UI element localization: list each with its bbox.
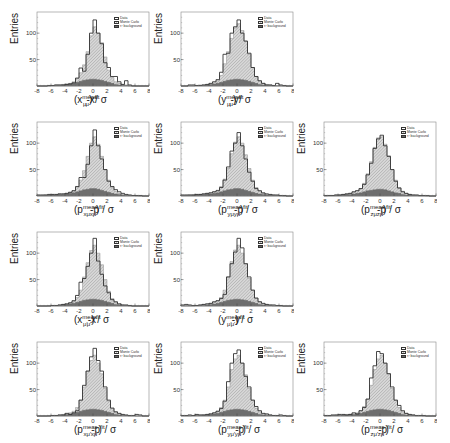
x-tick-label: 4 (263, 418, 267, 424)
legend: DataMonte Carloτ² background (401, 346, 429, 359)
x-axis-label-part: yμ' (235, 431, 243, 437)
legend-swatch-icon (258, 25, 263, 28)
x-tick-label: 6 (277, 418, 281, 424)
x-tick-label: -8 (321, 418, 327, 424)
legend-swatch-icon (114, 245, 119, 248)
y-axis-label: Entries (9, 13, 20, 44)
x-tick-label: 6 (133, 198, 137, 204)
legend-swatch-icon (114, 21, 119, 24)
x-axis-label-part: (p (218, 204, 227, 215)
x-axis-label-part: ) / σ (383, 204, 401, 215)
legend-swatch-icon (114, 135, 119, 138)
x-tick-label: -4 (62, 198, 68, 204)
legend-swatch-icon (114, 241, 119, 244)
legend-swatch-icon (401, 131, 406, 134)
legend-swatch-icon (114, 237, 119, 240)
x-tick-label: -8 (34, 308, 40, 314)
x-tick-label: -4 (62, 308, 68, 314)
x-axis-label-part: xμ (90, 211, 96, 217)
x-tick-label: 8 (434, 198, 437, 204)
legend-swatch-icon (114, 355, 119, 358)
x-tick-label: 4 (119, 418, 123, 424)
y-tick-label: 50 (173, 167, 180, 173)
legend-swatch-icon (114, 127, 119, 130)
monte-carlo-histogram (181, 24, 293, 86)
x-tick-label: 6 (420, 198, 424, 204)
x-tick-label: -6 (335, 198, 341, 204)
legend: DataMonte Carloτ² background (401, 126, 429, 139)
x-tick-label: -4 (62, 88, 68, 94)
legend-swatch-icon (401, 351, 406, 354)
histogram-panel-px-mup: -8-6-4-20246850100Entries(pmeasxμ'-pfitx… (0, 330, 150, 440)
x-tick-label: -4 (206, 198, 212, 204)
x-axis-label-part: ) / σ (235, 314, 253, 325)
x-tick-label: 4 (119, 198, 123, 204)
x-tick-label: 4 (263, 308, 267, 314)
histogram-panel-pz-mu: -8-6-4-20246850100Entries(pmeaszμ-pfitzμ… (287, 110, 437, 220)
x-axis-label-part: (p (218, 424, 227, 435)
x-axis-label-part: μ (230, 101, 233, 107)
y-tick-label: 100 (26, 250, 37, 256)
histogram-panel-x-mu: -8-6-4-20246850100Entries(xmeasμ-xfitμ) … (0, 0, 150, 110)
x-axis-label: (pmeasyμ'-pfityμ') / σ (218, 424, 260, 437)
x-tick-label: -6 (192, 308, 198, 314)
legend-entry: τ² background (258, 244, 286, 248)
y-tick-label: 50 (29, 387, 36, 393)
x-axis-label-part: ) / σ (98, 424, 116, 435)
x-axis-label: (pmeasxμ-pfitxμ) / σ (74, 204, 114, 217)
x-axis-label: (pmeasxμ'-pfitxμ') / σ (74, 424, 116, 437)
x-axis-label-part: yμ (234, 211, 240, 217)
y-tick-label: 100 (170, 360, 181, 366)
monte-carlo-histogram (324, 355, 436, 416)
y-axis-label: Entries (153, 343, 164, 374)
x-axis-label-part: ) / σ (91, 314, 109, 325)
legend-swatch-icon (114, 351, 119, 354)
legend-swatch-icon (258, 355, 263, 358)
legend-swatch-icon (258, 21, 263, 24)
y-axis-label: Entries (153, 13, 164, 44)
x-tick-label: 8 (291, 308, 294, 314)
legend-label: τ² background (264, 134, 286, 138)
x-tick-label: 6 (133, 308, 137, 314)
x-tick-label: 6 (133, 88, 137, 94)
y-axis-label: Entries (153, 123, 164, 154)
x-axis-label-part: ) / σ (233, 94, 251, 105)
x-tick-label: -4 (206, 88, 212, 94)
legend-label: τ² background (120, 244, 142, 248)
x-tick-label: -8 (34, 88, 40, 94)
legend-entry: τ² background (258, 24, 286, 28)
x-axis-label: (ymeasμ-yfitμ) / σ (218, 94, 251, 107)
legend-label: τ² background (120, 24, 142, 28)
legend: DataMonte Carloτ² background (114, 16, 142, 29)
y-axis-label: Entries (9, 123, 20, 154)
y-tick-label: 50 (29, 167, 36, 173)
x-axis-label-part: μ' (87, 321, 92, 327)
legend-swatch-icon (114, 17, 119, 20)
legend-entry: τ² background (258, 354, 286, 358)
x-tick-label: -8 (178, 198, 184, 204)
legend-entry: τ² background (401, 134, 429, 138)
legend-label: τ² background (264, 244, 286, 248)
x-tick-label: 6 (277, 198, 281, 204)
x-axis-label: (pmeaszμ'-pfitzμ') / σ (361, 424, 403, 437)
x-tick-label: 4 (119, 308, 123, 314)
histogram-panel-pz-mup: -8-6-4-20246850100Entries(pmeaszμ'-pfitz… (287, 330, 437, 440)
x-tick-label: 4 (119, 88, 123, 94)
x-axis-label-part: ) / σ (96, 204, 114, 215)
legend-entry: τ² background (258, 134, 286, 138)
y-tick-label: 50 (173, 387, 180, 393)
legend-swatch-icon (114, 25, 119, 28)
x-tick-label: -4 (206, 418, 212, 424)
legend-label: τ² background (120, 354, 142, 358)
y-tick-label: 50 (29, 277, 36, 283)
y-tick-label: 100 (26, 360, 37, 366)
histogram-panel-x-mup: -8-6-4-20246850100Entries(xmeasμ'-xfitμ'… (0, 220, 150, 330)
x-axis-label-part: ) / σ (89, 94, 107, 105)
legend-entry: τ² background (114, 24, 142, 28)
x-tick-label: -8 (178, 308, 184, 314)
y-tick-label: 100 (26, 30, 37, 36)
x-axis-label-part: ) / σ (385, 424, 403, 435)
x-tick-label: -8 (178, 418, 184, 424)
legend: DataMonte Carloτ² background (114, 346, 142, 359)
x-tick-label: -6 (48, 88, 54, 94)
